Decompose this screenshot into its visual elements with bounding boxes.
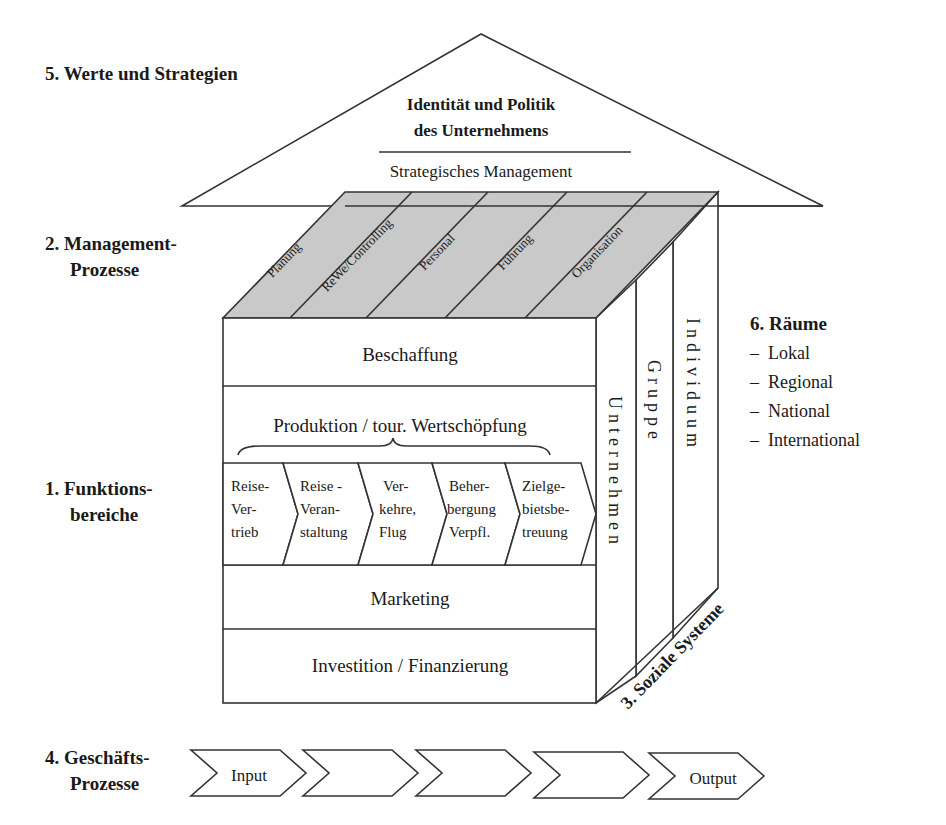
business-process-chain [191,750,764,799]
space-item: – Regional [749,372,833,392]
function-investition: Investition / Finanzierung [312,655,509,676]
vc-1-line3: trieb [231,524,259,540]
business-process-step [303,750,418,796]
social-level-unternehmen: Unternehmen [605,396,625,549]
side-face-gruppe [636,242,673,676]
social-level-gruppe: Gruppe [644,360,664,444]
roof-title-line2: des Unternehmens [414,121,549,140]
space-item: – National [749,401,830,421]
vc-4-line2: bergung [447,501,496,517]
section-label-management-1: 2. Management- [45,233,177,254]
vc-4-line3: Verpfl. [449,524,490,540]
section-label-funktion-2: bereiche [70,504,138,525]
business-process-step [416,750,531,796]
function-marketing: Marketing [370,588,450,609]
space-item: – Lokal [749,343,810,363]
vc-3-line2: kehre, [379,501,416,517]
vc-5-line3: treuung [522,524,568,540]
business-step-output: Output [689,769,737,788]
vc-5-line1: Zielge- [522,478,565,494]
function-beschaffung: Beschaffung [362,344,458,365]
roof-subtitle: Strategisches Management [390,162,573,181]
vc-5-line2: bietsbe- [522,501,569,517]
vc-1-line2: Ver- [231,501,257,517]
vc-1-line1: Reise- [231,478,269,494]
social-level-individuum: Individuum [683,318,703,452]
space-item: – International [749,430,860,450]
tourism-management-model-diagram: Identität und Politik des Unternehmens S… [0,0,946,825]
vc-2-line3: staltung [300,524,348,540]
vc-3-line3: Flug [379,524,407,540]
section-label-management-2: Prozesse [70,259,139,280]
business-process-step [534,752,649,798]
spaces-label: 6. Räume [750,313,827,334]
vc-2-line1: Reise - [300,478,342,494]
vc-3-line1: Ver- [383,478,409,494]
vc-2-line2: Veran- [300,501,340,517]
roof-title-line1: Identität und Politik [407,95,556,114]
vc-4-line1: Beher- [449,478,490,494]
section-label-werte: 5. Werte und Strategien [45,63,238,84]
business-step-input: Input [231,766,267,785]
section-label-geschaeft-1: 4. Geschäfts- [45,747,149,768]
section-label-funktion-1: 1. Funktions- [45,478,153,499]
function-produktion: Produktion / tour. Wertschöpfung [273,415,527,436]
section-label-geschaeft-2: Prozesse [70,773,139,794]
